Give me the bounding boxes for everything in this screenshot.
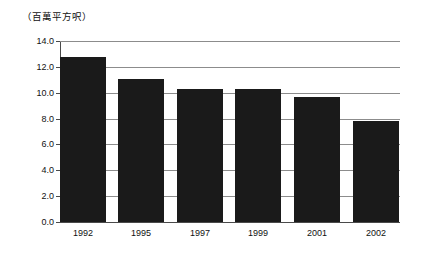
y-tick-label: 2.0 xyxy=(8,192,54,201)
gridline-baseline xyxy=(60,222,400,223)
y-tick-label: 12.0 xyxy=(8,63,54,72)
plot-area xyxy=(60,41,400,222)
y-tick-label: 10.0 xyxy=(8,89,54,98)
chart-unit-caption: （百萬平方呎） xyxy=(22,11,92,23)
x-tick-label: 2001 xyxy=(294,228,340,239)
x-tick-label: 1992 xyxy=(60,228,106,239)
y-tick-label: 8.0 xyxy=(8,115,54,124)
bar-1999 xyxy=(235,89,281,222)
gridline-10 xyxy=(60,93,400,94)
gridline-2 xyxy=(60,196,400,197)
bar-1992 xyxy=(60,57,106,222)
x-tick-label: 2002 xyxy=(353,228,399,239)
bar-1997 xyxy=(177,89,223,222)
gridline-12 xyxy=(60,67,400,68)
y-tick-label: 0.0 xyxy=(8,218,54,227)
y-tick-label: 14.0 xyxy=(8,37,54,46)
y-tick-mark xyxy=(56,41,60,42)
gridline-6 xyxy=(60,144,400,145)
bar-2001 xyxy=(294,97,340,222)
gridline-4 xyxy=(60,170,400,171)
x-tick-label: 1999 xyxy=(235,228,281,239)
gridline-8 xyxy=(60,119,400,120)
bar-2002 xyxy=(353,121,399,222)
gridline-14 xyxy=(60,41,400,42)
bar-chart-figure: （百萬平方呎） 14.0 12.0 10.0 8.0 6.0 4.0 2.0 0… xyxy=(0,0,423,268)
y-tick-label: 4.0 xyxy=(8,166,54,175)
x-tick-label: 1997 xyxy=(177,228,223,239)
y-tick-mark xyxy=(56,222,60,223)
y-axis-tick-labels: 14.0 12.0 10.0 8.0 6.0 4.0 2.0 0.0 xyxy=(8,41,54,222)
y-tick-label: 6.0 xyxy=(8,140,54,149)
bar-1995 xyxy=(118,79,164,223)
x-tick-label: 1995 xyxy=(118,228,164,239)
x-axis-tick-labels: 1992 1995 1997 1999 2001 2002 xyxy=(60,228,400,244)
